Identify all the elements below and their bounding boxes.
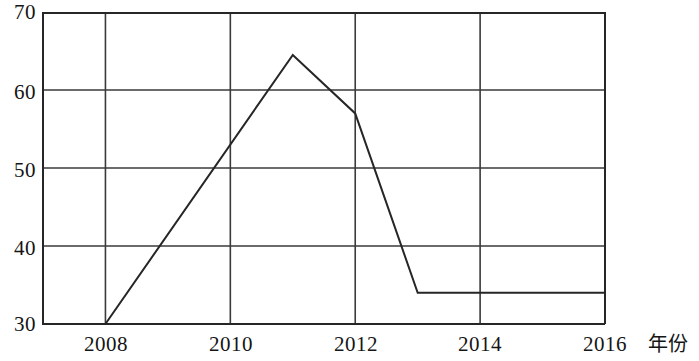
line-chart: 70 60 50 40 30 2008 2010 2012 2014 2016 … [0,0,699,361]
chart-plot-area [0,0,699,361]
y-tick-label-30: 30 [0,314,36,335]
y-tick-label-70: 70 [0,2,36,23]
y-tick-label-40: 40 [0,238,36,259]
y-tick-label-60: 60 [0,82,36,103]
x-tick-label-2012: 2012 [306,334,406,355]
x-tick-label-2010: 2010 [181,334,281,355]
y-tick-label-50: 50 [0,160,36,181]
x-tick-label-2008: 2008 [56,334,156,355]
x-tick-label-2014: 2014 [430,334,530,355]
x-axis-title: 年份 [648,334,688,354]
x-tick-label-2016: 2016 [555,334,655,355]
